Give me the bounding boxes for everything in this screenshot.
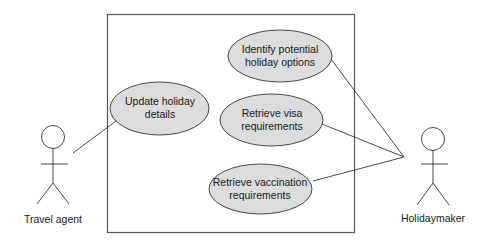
actor-label-holidaymaker: Holidaymaker [401,212,466,224]
usecase-label-line1: Retrieve visa [242,107,303,119]
usecase-visa[interactable]: Retrieve visa requirements [220,94,323,146]
usecase-label-line2: details [145,108,175,120]
usecase-identify[interactable]: Identify potential holiday options [228,30,332,82]
usecase-label-line1: Update holiday [125,95,196,107]
usecase-update[interactable]: Update holiday details [110,82,209,135]
actor-travel-agent[interactable] [37,126,69,205]
association-travel-agent-update [73,121,116,153]
actor-left-leg [417,183,433,205]
actor-right-leg [53,183,69,204]
stick-figure-icon [422,128,445,151]
usecase-vaccination[interactable]: Retrieve vaccination requirements [209,164,312,214]
usecase-label-line2: requirements [229,189,290,201]
actor-right-leg [433,183,449,205]
actor-left-leg [37,183,53,204]
actor-label-travel-agent: Travel agent [24,213,82,225]
usecase-label-line1: Retrieve vaccination [213,176,308,188]
stick-figure-icon [42,126,65,149]
association-holidaymaker-vaccination [313,157,404,181]
usecase-label-line2: requirements [241,120,302,132]
usecase-label-line1: Identify potential [242,43,318,55]
actor-holidaymaker[interactable] [417,128,449,206]
usecase-label-line2: holiday options [245,56,315,68]
use-case-diagram: Identify potential holiday options Updat… [0,0,485,241]
